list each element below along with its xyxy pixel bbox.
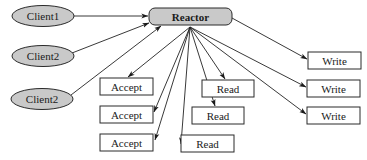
read-node-3: Read: [181, 135, 234, 152]
accept-node-2: Accept: [100, 106, 153, 123]
read-node-1: Read: [202, 80, 254, 97]
read-label: Read: [196, 138, 219, 150]
write-node-1: Write: [308, 52, 361, 69]
write-label: Write: [321, 110, 346, 122]
client-label: Client2: [26, 93, 58, 105]
reactor-node: Reactor: [149, 8, 232, 25]
write-node-3: Write: [307, 107, 360, 124]
read-node-2: Read: [192, 107, 244, 124]
client-node-1: Client1: [12, 6, 74, 27]
reactor-label: Reactor: [172, 11, 209, 23]
edge-client2a-reactor: [72, 23, 149, 53]
accept-node-1: Accept: [100, 78, 153, 95]
client-node-2: Client2: [12, 46, 74, 67]
write-label: Write: [321, 83, 346, 95]
client-label: Client2: [27, 50, 59, 62]
edge-reactor-write1: [232, 18, 307, 59]
edge-reactor-write3: [190, 27, 306, 114]
reactor-diagram: Client1 Client2 Client2 Reactor Accept A…: [0, 0, 367, 160]
edge-reactor-accept1: [128, 27, 190, 77]
accept-label: Accept: [111, 109, 142, 121]
edge-reactor-accept3: [155, 27, 190, 140]
accept-label: Accept: [111, 137, 142, 149]
edge-reactor-read1: [190, 27, 225, 79]
read-label: Read: [217, 83, 240, 95]
accept-label: Accept: [111, 81, 142, 93]
write-node-2: Write: [307, 80, 360, 97]
read-label: Read: [207, 110, 230, 122]
write-label: Write: [322, 55, 347, 67]
edge-reactor-write2: [190, 27, 306, 87]
client-label: Client1: [27, 10, 59, 22]
accept-node-3: Accept: [100, 134, 153, 151]
client-node-3: Client2: [11, 89, 73, 110]
